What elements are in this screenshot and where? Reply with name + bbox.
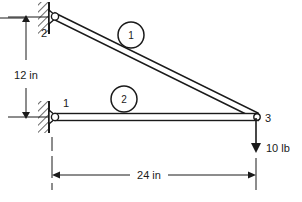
node-label-1: 1 [63,97,69,109]
member-2-body [55,114,258,121]
load-label-10lb: 10 lb [266,142,290,154]
member-1-body [55,13,258,120]
dimension-arrowhead-down [22,112,30,119]
dimension-label-24in: 24 in [137,169,161,181]
member-element-2 [55,114,258,121]
truss-diagram-canvas: 2 1 3 1 2 12 in [0,0,302,202]
element-badge-2-label: 2 [121,94,127,105]
dimension-arrowhead-right [248,172,256,179]
dimension-arrowhead-left [52,172,60,179]
load-arrow-head [251,143,261,153]
node-label-3: 3 [265,112,271,124]
truss-diagram: 2 1 3 1 2 12 in [0,0,302,202]
member-element-1 [55,13,258,120]
element-badge-2: 2 [111,86,137,112]
dimension-horizontal-24in: 24 in [52,137,256,190]
element-badge-1: 1 [118,22,144,48]
pin-joint-node-2 [51,13,58,20]
pin-joint-node-3 [254,114,260,120]
element-badge-1-label: 1 [128,30,134,41]
node-label-2: 2 [41,27,47,39]
dimension-label-12in: 12 in [14,69,38,81]
pin-joint-node-1 [51,113,58,120]
